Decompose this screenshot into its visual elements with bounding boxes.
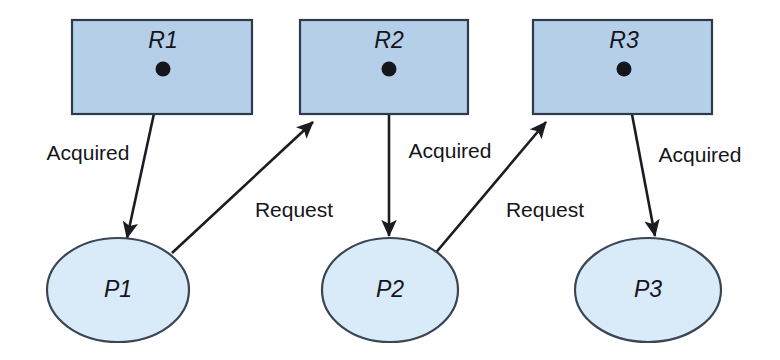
resource-instance-dot-r1 (156, 62, 171, 77)
resource-instance-dot-r2 (382, 62, 397, 77)
resource-node-r3[interactable]: R3 (533, 20, 712, 114)
edge-labels-layer: AcquiredRequestAcquiredRequestAcquired (47, 139, 742, 221)
processes-layer: P1P2P3 (47, 238, 721, 342)
resource-label-r1: R1 (148, 27, 177, 53)
edge-request-p1-r2 (172, 122, 313, 253)
edge-label-assignment-r3-p3: Acquired (659, 143, 742, 166)
resource-instance-dot-r3 (617, 62, 632, 77)
edge-label-assignment-r1-p1: Acquired (47, 141, 130, 164)
resource-label-r2: R2 (374, 27, 404, 53)
edge-label-assignment-r2-p2: Acquired (409, 139, 492, 162)
process-label-p2: P2 (376, 276, 404, 302)
edge-label-request-p1-r2: Request (255, 198, 333, 221)
resource-node-r2[interactable]: R2 (300, 20, 468, 114)
resources-layer: R1R2R3 (72, 20, 712, 114)
resource-allocation-graph: R1R2R3 P1P2P3 AcquiredRequestAcquiredReq… (0, 0, 780, 360)
resource-label-r3: R3 (609, 27, 639, 53)
process-node-p2[interactable]: P2 (322, 238, 458, 342)
diagram-canvas: R1R2R3 P1P2P3 AcquiredRequestAcquiredReq… (0, 0, 780, 360)
process-label-p1: P1 (104, 276, 132, 302)
edge-label-request-p2-r3: Request (506, 198, 584, 221)
process-label-p3: P3 (634, 276, 662, 302)
edge-arrow-icon (172, 122, 313, 253)
process-node-p3[interactable]: P3 (575, 238, 721, 342)
resource-node-r1[interactable]: R1 (72, 20, 252, 114)
process-node-p1[interactable]: P1 (47, 238, 189, 342)
